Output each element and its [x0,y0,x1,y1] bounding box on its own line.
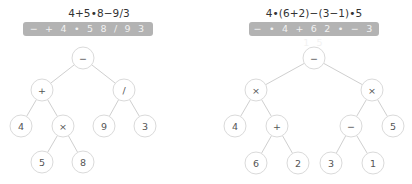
tree-edge [357,135,368,153]
node-label: 1 [370,158,376,169]
node-label: − [310,53,318,64]
tree-node: − [340,115,362,137]
tree-node: 8 [72,151,94,173]
tree-edges [27,63,388,153]
tree-node: 4 [224,115,246,137]
node-label: × [252,85,260,96]
expression-trees: −+/4×9358−××4+−56231 [0,0,412,184]
node-label: × [59,121,67,132]
tree-node: − [303,47,325,69]
tree-edge [261,136,271,154]
node-label: 5 [39,157,45,168]
tree-edge [48,100,58,117]
tree-edge [51,65,75,83]
tree-edge [68,136,77,153]
tree-node: 1 [362,152,384,174]
node-label: 4 [232,121,238,132]
node-label: 9 [101,121,107,132]
tree-node: 4 [10,115,32,137]
tree-node: 6 [245,152,267,174]
tree-node: 3 [320,152,342,174]
node-label: 5 [390,121,396,132]
tree-node: × [52,115,74,137]
tree-node: + [266,115,288,137]
node-label: 3 [328,158,334,169]
tree-edge [92,65,116,83]
node-label: − [347,121,355,132]
tree-edge [262,100,272,117]
node-label: 8 [80,157,86,168]
tree-node: 9 [93,115,115,137]
tree-node: 5 [382,115,404,137]
node-label: + [38,85,46,96]
node-label: + [273,121,281,132]
tree-edge [48,136,58,153]
tree-edge [27,100,37,117]
tree-edge [130,100,140,117]
tree-edge [378,100,388,117]
tree-node: × [245,79,267,101]
tree-node: − [72,47,94,69]
node-label: 4 [18,121,24,132]
tree-edge [241,100,251,117]
tree-edge [266,63,305,84]
tree-node: + [31,79,53,101]
tree-edge [324,63,363,84]
node-label: − [79,53,87,64]
tree-node: 5 [31,151,53,173]
tree-node: × [361,79,383,101]
node-label: × [368,85,376,96]
tree-node: 2 [287,152,309,174]
node-label: 3 [142,121,148,132]
tree-edge [109,100,118,117]
tree-node: 3 [134,115,156,137]
tree-edge [282,136,292,154]
tree-nodes: −+/4×9358−××4+−56231 [10,47,404,174]
tree-edge [336,136,346,154]
tree-edge [357,100,367,117]
tree-node: / [113,79,135,101]
node-label: 2 [295,158,301,169]
node-label: 6 [253,158,259,169]
